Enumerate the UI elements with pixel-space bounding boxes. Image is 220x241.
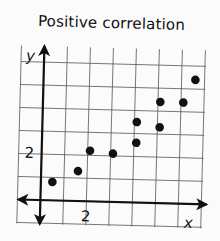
data-point <box>132 138 141 147</box>
x-axis-label: x <box>183 214 193 232</box>
data-point <box>74 167 83 176</box>
data-point <box>191 75 200 84</box>
data-point <box>155 123 164 132</box>
data-point <box>109 149 118 158</box>
y-tick-label: 2 <box>24 144 34 162</box>
x-axis <box>16 193 208 210</box>
data-point <box>179 98 188 107</box>
scatter-plot: y x 2 2 <box>0 0 220 241</box>
x-tick-label: 2 <box>81 207 91 225</box>
data-point <box>86 146 95 155</box>
data-points <box>48 72 200 190</box>
plot-area: y x 2 2 <box>16 43 213 232</box>
data-point <box>132 118 141 127</box>
data-point <box>156 98 165 107</box>
y-axis-label: y <box>25 47 36 65</box>
data-point <box>48 178 57 187</box>
